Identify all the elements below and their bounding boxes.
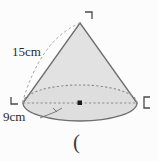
base-diameter-label: 9cm	[3, 110, 25, 123]
slant-height-label: 15cm	[12, 45, 41, 58]
left-crop-mark-icon	[11, 97, 18, 104]
base-center-dot	[78, 101, 83, 106]
right-crop-mark-icon	[144, 97, 150, 108]
apex-crop-mark-icon	[85, 12, 92, 19]
cone-figure-page: 15cm 9cm (	[0, 0, 158, 161]
trailing-paren-text: (	[73, 132, 80, 153]
